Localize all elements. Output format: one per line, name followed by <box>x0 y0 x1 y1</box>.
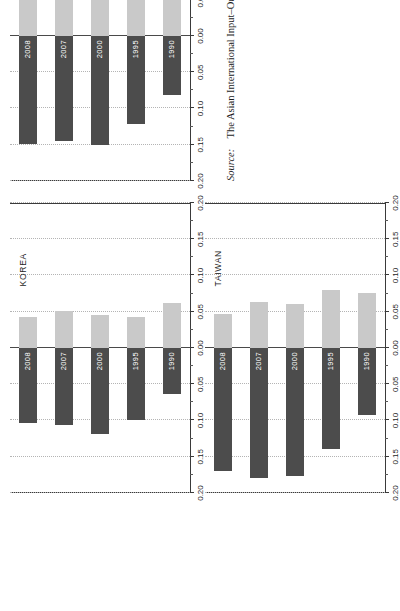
chart-panel-korea: 19901995200020072008 KOREA 0.200.150.100… <box>10 203 190 493</box>
axis-tick-label: 0.00 <box>196 333 205 363</box>
axis-tick-label: 0.15 <box>196 130 205 160</box>
axis-tick-label: 0.20 <box>196 478 205 508</box>
bar-year-label: 2000 <box>290 352 299 378</box>
axis-tick <box>190 202 194 203</box>
axis-tick <box>385 275 389 276</box>
axis-line <box>385 203 386 493</box>
gridline <box>10 456 190 457</box>
bar-year-label: 2000 <box>95 352 104 378</box>
gridline <box>205 202 385 203</box>
axis-minor-tick <box>190 293 193 294</box>
bar-positive <box>286 305 305 349</box>
bar-year-label: 1995 <box>326 352 335 378</box>
axis-minor-tick <box>190 401 193 402</box>
axis-tick-label: 0.00 <box>196 21 205 51</box>
axis-minor-tick <box>385 438 388 439</box>
bar-positive <box>322 290 341 348</box>
axis-tick <box>190 180 194 181</box>
axis-tick <box>190 420 194 421</box>
bar-positive <box>19 317 38 348</box>
bar-positive <box>55 311 74 348</box>
axis-tick <box>385 202 389 203</box>
axis-tick <box>385 420 389 421</box>
axis-tick-label: 0.05 <box>196 0 205 15</box>
axis-tick-label: 0.10 <box>196 261 205 291</box>
chart-panel-thailand: 19901995200020072008 THAILAND 0.200.150.… <box>10 0 190 181</box>
bar-year-label: 1995 <box>131 40 140 66</box>
axis-tick-label: 0.15 <box>391 442 400 472</box>
plot-area-thailand: 19901995200020072008 <box>10 0 190 181</box>
axis-tick-label: 0.00 <box>391 333 400 363</box>
bar-year-label: 2007 <box>59 40 68 66</box>
bar-positive <box>163 0 182 36</box>
source-text: The Asian International Input–Output Tab… <box>225 0 236 138</box>
bar-positive <box>127 0 146 36</box>
axis-tick-label: 0.20 <box>391 188 400 218</box>
axis-minor-tick <box>190 126 193 127</box>
axis-minor-tick <box>385 365 388 366</box>
axis-tick <box>385 492 389 493</box>
axis-minor-tick <box>190 474 193 475</box>
axis-minor-tick <box>190 256 193 257</box>
axis-tick <box>190 144 194 145</box>
source-note: Source: The Asian International Input–Ou… <box>225 0 236 181</box>
bar-positive <box>127 317 146 348</box>
axis-minor-tick <box>385 474 388 475</box>
axis-minor-tick <box>190 17 193 18</box>
axis-tick <box>190 238 194 239</box>
bar-positive <box>91 0 110 36</box>
axis-tick <box>385 456 389 457</box>
panel-title-korea: KOREA <box>18 253 28 286</box>
axis-tick <box>385 347 389 348</box>
axis-tick-label: 0.10 <box>391 406 400 436</box>
axis-tick <box>385 311 389 312</box>
axis-tick <box>190 347 194 348</box>
axis-minor-tick <box>385 329 388 330</box>
axis-tick <box>190 35 194 36</box>
bar-positive <box>163 303 182 348</box>
gridline <box>10 275 190 276</box>
axis-minor-tick <box>190 365 193 366</box>
axis-tick-label: 0.05 <box>391 297 400 327</box>
axis-minor-tick <box>385 220 388 221</box>
axis-minor-tick <box>190 89 193 90</box>
bar-positive <box>214 314 233 348</box>
axis-tick <box>190 71 194 72</box>
axis-tick-label: 0.15 <box>196 442 205 472</box>
axis-tick-label: 0.05 <box>196 297 205 327</box>
gridline <box>205 238 385 239</box>
axis-minor-tick <box>385 256 388 257</box>
axis-minor-tick <box>385 293 388 294</box>
axis-tick <box>190 383 194 384</box>
axis-tick-label: 0.10 <box>196 94 205 124</box>
bar-year-label: 2008 <box>23 352 32 378</box>
bar-year-label: 2008 <box>218 352 227 378</box>
panel-title-taiwan: TAIWAN <box>213 250 223 286</box>
gridline <box>10 180 190 181</box>
gridline <box>10 238 190 239</box>
axis-tick-label: 0.05 <box>196 57 205 87</box>
bar-year-label: 1990 <box>362 352 371 378</box>
axis-minor-tick <box>385 401 388 402</box>
bar-year-label: 1990 <box>167 40 176 66</box>
bar-year-label: 2007 <box>59 352 68 378</box>
axis-tick <box>385 383 389 384</box>
bar-positive <box>250 302 269 348</box>
axis-tick-label: 0.15 <box>391 224 400 254</box>
axis-tick <box>190 108 194 109</box>
axis-tick-label: 0.10 <box>391 261 400 291</box>
axis-tick-label: 0.05 <box>391 369 400 399</box>
bar-year-label: 2000 <box>95 40 104 66</box>
gridline <box>205 275 385 276</box>
bar-year-label: 1995 <box>131 352 140 378</box>
plot-area-korea: 19901995200020072008 <box>10 203 190 493</box>
chart-panel-taiwan: 19901995200020072008 TAIWAN 0.200.150.10… <box>205 203 385 493</box>
axis-tick-label: 0.15 <box>196 224 205 254</box>
axis-tick-label: 0.20 <box>391 478 400 508</box>
axis-tick <box>190 492 194 493</box>
axis-minor-tick <box>190 53 193 54</box>
axis-minor-tick <box>190 438 193 439</box>
axis-tick-label: 0.20 <box>196 166 205 196</box>
